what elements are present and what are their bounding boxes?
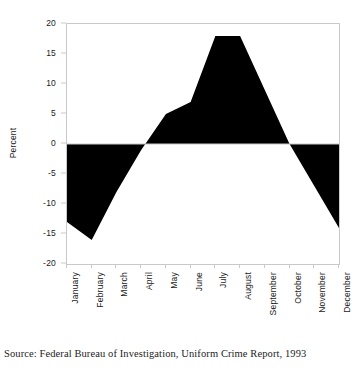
x-tick-mark — [338, 264, 339, 268]
x-tick-mark — [214, 264, 215, 268]
x-tick-label-february: February — [95, 272, 105, 308]
x-tick-mark — [190, 264, 191, 268]
x-tick-label-december: December — [342, 272, 352, 313]
x-tick-label-november: November — [317, 272, 327, 313]
x-tick-label-may: May — [169, 272, 179, 289]
x-tick-label-september: September — [268, 272, 278, 315]
area-polygon — [67, 36, 339, 240]
y-tick-label: -5 — [48, 168, 56, 178]
y-tick-label: 10 — [46, 78, 56, 88]
x-tick-mark — [239, 264, 240, 268]
y-tick-label: -15 — [43, 228, 56, 238]
chart-figure: Percent 20151050-5-10-15-20 JanuaryFebru… — [0, 0, 357, 370]
x-tick-label-january: January — [70, 272, 80, 304]
y-axis: Percent 20151050-5-10-15-20 — [0, 0, 66, 290]
y-tick-label: -10 — [43, 198, 56, 208]
x-tick-mark — [289, 264, 290, 268]
y-tick-label: 20 — [46, 18, 56, 28]
y-axis-title: Percent — [8, 113, 18, 173]
x-tick-label-october: October — [293, 272, 303, 304]
plot-area — [66, 23, 340, 265]
x-tick-mark — [140, 264, 141, 268]
area-series — [67, 24, 339, 264]
source-caption: Source: Federal Bureau of Investigation,… — [4, 348, 306, 359]
x-tick-mark — [91, 264, 92, 268]
y-tick-label: 0 — [51, 138, 56, 148]
x-axis: JanuaryFebruaryMarchAprilMayJuneJulyAugu… — [0, 264, 357, 340]
x-tick-mark — [264, 264, 265, 268]
x-tick-label-august: August — [243, 272, 253, 300]
x-tick-mark — [66, 264, 67, 268]
y-tick-label: 5 — [51, 108, 56, 118]
x-tick-mark — [313, 264, 314, 268]
y-tick-label: 15 — [46, 48, 56, 58]
x-tick-label-july: July — [218, 272, 228, 288]
x-tick-mark — [165, 264, 166, 268]
x-tick-label-march: March — [119, 272, 129, 297]
x-tick-mark — [115, 264, 116, 268]
x-tick-label-june: June — [194, 272, 204, 291]
x-tick-label-april: April — [144, 272, 154, 290]
